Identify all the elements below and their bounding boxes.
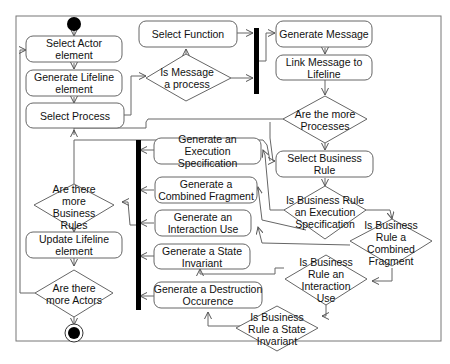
action-select-process[interactable] — [26, 103, 124, 128]
action-gen-state-invariant[interactable] — [154, 244, 250, 269]
decision-more-processes[interactable] — [283, 96, 367, 143]
decision-more-business-rules[interactable] — [34, 184, 114, 229]
action-generate-message[interactable] — [276, 21, 372, 47]
initial-node — [67, 17, 81, 31]
action-gen-exec-spec[interactable] — [154, 138, 261, 164]
action-gen-interaction-use[interactable] — [155, 210, 251, 236]
decision-is-combined-fragment[interactable] — [350, 219, 432, 266]
final-node — [68, 327, 80, 339]
decision-is-message-process[interactable] — [146, 54, 231, 101]
decision-is-state-invariant[interactable] — [236, 306, 318, 351]
activity-diagram — [0, 0, 450, 364]
action-select-actor[interactable] — [26, 36, 122, 62]
action-gen-combined-fragment[interactable] — [155, 177, 257, 203]
action-select-function[interactable] — [139, 21, 237, 47]
decision-is-interaction-use[interactable] — [285, 255, 367, 305]
action-update-lifeline[interactable] — [26, 232, 122, 258]
fork-bar-left — [136, 140, 141, 310]
action-generate-lifeline[interactable] — [26, 70, 122, 96]
decision-is-exec-spec[interactable] — [284, 186, 366, 239]
decision-more-actors[interactable] — [35, 270, 113, 317]
action-link-message[interactable] — [276, 55, 372, 80]
action-gen-destruction[interactable] — [154, 282, 262, 308]
fork-bar-top — [254, 28, 259, 94]
action-select-business-rule[interactable] — [276, 151, 373, 177]
